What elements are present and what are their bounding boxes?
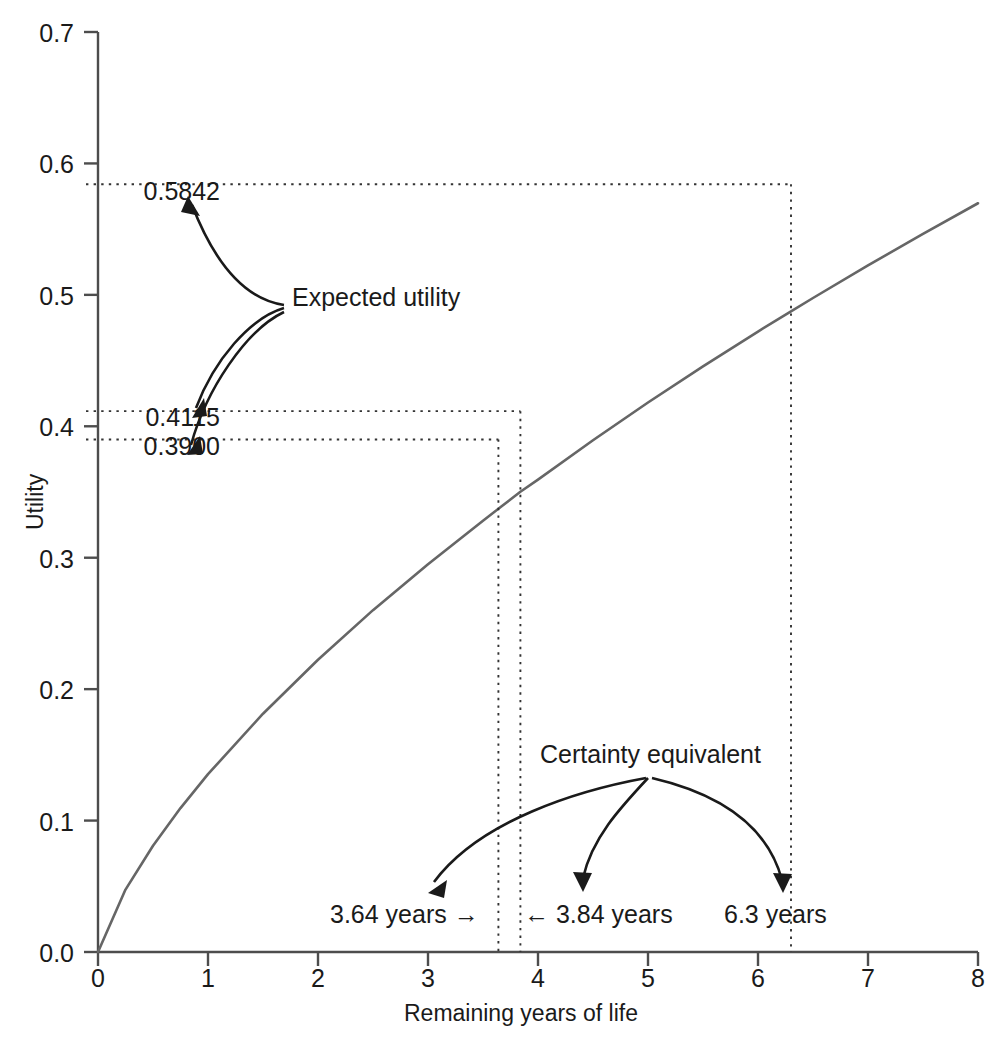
x-tick-label: 4: [518, 964, 558, 993]
x-tick-label: 1: [188, 964, 228, 993]
utility-value-label: 0.4115: [110, 403, 220, 432]
x-axis-title: Remaining years of life: [404, 1000, 638, 1027]
y-tick-label: 0.0: [14, 939, 74, 968]
utility-curve-figure: 0.7 0.6 0.5 0.4 0.3 0.2 0.1 0.0 0 1 2 3 …: [0, 0, 1006, 1039]
x-tick-label: 3: [408, 964, 448, 993]
x-tick-label: 2: [298, 964, 338, 993]
year-value-label: 6.3 years: [724, 900, 827, 929]
utility-value-label: 0.3900: [110, 432, 220, 461]
y-tick-label: 0.3: [14, 545, 74, 574]
y-tick-label: 0.5: [14, 282, 74, 311]
x-tick-label: 5: [628, 964, 668, 993]
arrow-to-0-5842: [192, 205, 284, 305]
arrow-to-3-84: [583, 778, 648, 878]
axis-lines: [98, 32, 978, 952]
x-tick-label: 7: [848, 964, 888, 993]
utility-curve: [98, 203, 978, 952]
year-value-label: ← 3.84 years: [524, 900, 673, 929]
y-axis-ticks: [84, 32, 98, 952]
expected-utility-label: Expected utility: [292, 283, 460, 312]
x-tick-label: 6: [738, 964, 778, 993]
certainty-equivalent-label: Certainty equivalent: [540, 740, 761, 769]
arrowhead-6-3: [773, 873, 792, 893]
y-tick-label: 0.1: [14, 808, 74, 837]
arrowhead-3-84: [573, 872, 592, 892]
y-axis-title: Utility: [22, 474, 49, 530]
y-tick-label: 0.4: [14, 413, 74, 442]
utility-value-label: 0.5842: [110, 177, 220, 206]
arrow-to-3-64: [434, 778, 646, 882]
y-tick-label: 0.7: [14, 19, 74, 48]
certainty-equivalent-arrowheads: [428, 872, 792, 898]
arrow-to-0-4115: [196, 308, 284, 408]
certainty-equivalent-arrows: [434, 778, 782, 882]
arrowhead-3-64: [428, 880, 447, 898]
year-value-label: 3.64 years →: [330, 900, 479, 929]
x-tick-label: 0: [78, 964, 118, 993]
arrow-to-6-3: [652, 778, 782, 880]
chart-canvas: [0, 0, 1006, 1039]
y-tick-label: 0.2: [14, 676, 74, 705]
y-tick-label: 0.6: [14, 150, 74, 179]
x-tick-label: 8: [958, 964, 998, 993]
